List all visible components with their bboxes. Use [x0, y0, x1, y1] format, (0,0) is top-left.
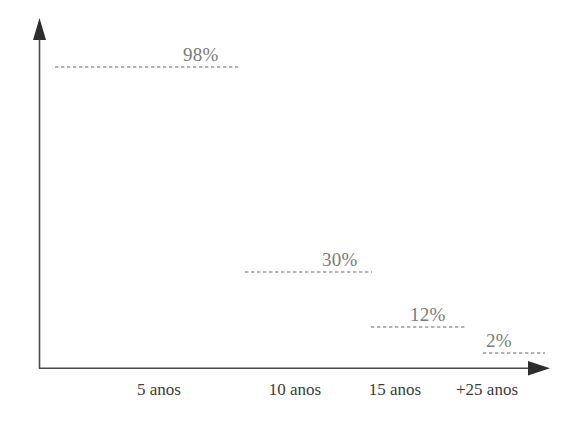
x-tick-label-10-anos: 10 anos — [260, 381, 330, 398]
chart-canvas — [0, 0, 572, 424]
value-segments — [55, 67, 545, 353]
data-label-30: 30% — [322, 250, 357, 269]
x-tick-label-15-anos: 15 anos — [360, 381, 430, 398]
chart-container: 98% 30% 12% 2% 5 anos 10 anos 15 anos +2… — [0, 0, 572, 424]
x-tick-label-25-anos: +25 anos — [444, 381, 530, 398]
data-label-2: 2% — [486, 331, 512, 350]
y-axis-arrow — [33, 18, 46, 369]
data-label-12: 12% — [410, 305, 445, 324]
x-tick-label-5-anos: 5 anos — [130, 381, 188, 398]
x-axis-arrow — [39, 361, 550, 375]
data-label-98: 98% — [183, 45, 218, 64]
